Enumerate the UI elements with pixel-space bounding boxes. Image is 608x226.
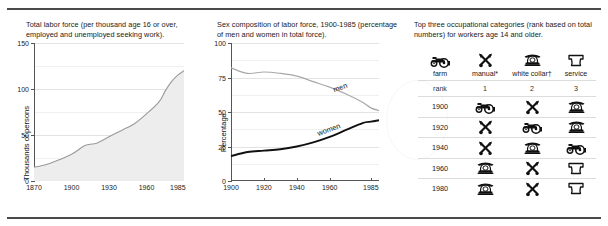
chart-1-y-axis-title: Thousands of persons (22, 106, 31, 181)
manual-tools-icon (477, 119, 494, 135)
rank-cell-white-collar-telephone-icon (508, 140, 556, 156)
white-collar-telephone-icon (522, 52, 543, 68)
white-collar-telephone-icon (522, 140, 543, 156)
service-chefhat-icon (566, 181, 586, 196)
manual-tools-icon (477, 52, 494, 68)
x-tick-label: 1960 (139, 184, 155, 191)
service-chefhat-icon (566, 53, 586, 68)
rank-cell-service-chefhat-icon (556, 161, 596, 176)
panel-total-labor-force: Total labor force (per thousand age 16 o… (8, 20, 204, 212)
occupational-rank-table: farmmanual*white collar†servicerank12319… (418, 46, 596, 199)
row-year-label: 1940 (418, 143, 462, 152)
manual-tools-icon (524, 160, 541, 176)
x-tick-label: 1960 (322, 184, 338, 191)
manual-tools-icon (524, 181, 541, 197)
chart-2-y-axis-title: Percentage (219, 113, 228, 152)
total-labor-force-chart: 05010015018701900193019601985 (34, 43, 184, 181)
row-year-label: 1900 (418, 102, 462, 111)
rank-cell-manual-tools-icon (508, 160, 556, 176)
table-category-label-row: farmmanual*white collar†service (418, 68, 596, 80)
category-label-whitecollar: white collar† (508, 70, 556, 78)
category-label-service: service (556, 70, 596, 78)
category-label-farm: farm (418, 70, 462, 78)
row-year-label: 1980 (418, 184, 462, 193)
rank-cell-manual-tools-icon (462, 119, 508, 135)
header-icon-cell-manual (462, 52, 508, 68)
table-row: 1900 (418, 96, 596, 117)
y-tick-label: 75 (218, 74, 226, 81)
category-label-manual: manual* (462, 70, 508, 78)
x-tick-label: 1985 (363, 184, 379, 191)
table-row: 1960 (418, 158, 596, 179)
header-icon-cell-whitecollar (508, 52, 556, 68)
x-tick-label: 1985 (170, 184, 186, 191)
white-collar-telephone-icon (566, 119, 587, 135)
header-icon-cell-farm (418, 54, 462, 68)
table-row: 1920 (418, 117, 596, 138)
rank-cell-white-collar-telephone-icon (462, 160, 508, 176)
rank-cell-white-collar-telephone-icon (556, 99, 596, 115)
x-tick-label: 1900 (223, 184, 239, 191)
panel-1-caption: Total labor force (per thousand age 16 o… (26, 20, 202, 39)
rank-value-3: 3 (556, 85, 596, 93)
panel-sex-composition: Sex composition of labor force, 1900-198… (203, 20, 403, 212)
rank-cell-white-collar-telephone-icon (556, 119, 596, 135)
y-tick-label: 100 (17, 86, 29, 93)
manual-tools-icon (524, 99, 541, 115)
table-row: 1980 (418, 178, 596, 199)
header-icon-cell-service (556, 53, 596, 68)
farm-tractor-icon (474, 100, 496, 114)
rank-cell-farm-tractor-icon (556, 141, 596, 155)
area-series (34, 43, 184, 181)
bottom-divider-rule (7, 217, 601, 219)
x-tick-label: 1920 (256, 184, 272, 191)
rank-cell-farm-tractor-icon (462, 100, 508, 114)
series-women (231, 120, 379, 156)
table-row: 1940 (418, 137, 596, 158)
farm-tractor-icon (565, 141, 587, 155)
x-tick-label: 1900 (64, 184, 80, 191)
figure-page: Total labor force (per thousand age 16 o… (0, 0, 608, 226)
rank-value-2: 2 (508, 85, 556, 93)
row-year-label: 1920 (418, 123, 462, 132)
x-tick-label: 1940 (289, 184, 305, 191)
rank-cell-manual-tools-icon (462, 140, 508, 156)
manual-tools-icon (477, 140, 494, 156)
y-tick (31, 181, 35, 182)
white-collar-telephone-icon (566, 99, 587, 115)
table-rank-header-row: rank123 (418, 80, 596, 96)
farm-tractor-icon (521, 120, 543, 134)
white-collar-telephone-icon (475, 181, 496, 197)
rank-cell-farm-tractor-icon (508, 120, 556, 134)
panel-3-caption: Top three occupational categories (rank … (414, 20, 602, 39)
rank-row-label: rank (418, 85, 462, 93)
service-chefhat-icon (566, 161, 586, 176)
y-tick (228, 181, 232, 182)
panel-2-caption: Sex composition of labor force, 1900-198… (217, 20, 403, 39)
rank-cell-white-collar-telephone-icon (462, 181, 508, 197)
panel-occupational-categories: Top three occupational categories (rank … (404, 20, 602, 212)
y-tick-label: 150 (17, 40, 29, 47)
line-series-group (231, 43, 379, 181)
row-year-label: 1960 (418, 164, 462, 173)
x-tick-label: 1870 (26, 184, 42, 191)
white-collar-telephone-icon (475, 160, 496, 176)
rank-cell-service-chefhat-icon (556, 181, 596, 196)
rank-cell-manual-tools-icon (508, 181, 556, 197)
rank-cell-manual-tools-icon (508, 99, 556, 115)
rank-value-1: 1 (462, 85, 508, 93)
table-icon-header-row (418, 46, 596, 68)
top-divider-rule (7, 8, 601, 10)
series-men (231, 68, 379, 111)
farm-tractor-icon (429, 54, 451, 68)
y-tick-label: 100 (214, 40, 226, 47)
x-tick-label: 1930 (101, 184, 117, 191)
sex-composition-chart: 025507510019001920194019601985menwomen (231, 43, 379, 181)
